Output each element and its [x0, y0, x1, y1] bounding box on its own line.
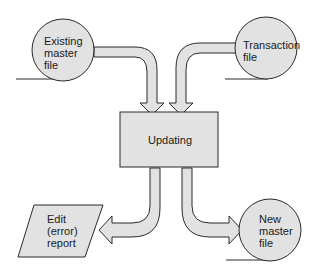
updating-label: Updating: [148, 134, 192, 146]
label-line: master: [259, 225, 293, 237]
edit-report-label: Edit (error) report: [47, 213, 78, 249]
existing-master-file-label: Existing master file: [44, 35, 83, 71]
arrow-updating-to-newmaster: [182, 168, 242, 244]
label-line: master: [44, 47, 83, 59]
transaction-file-label: Transaction file: [243, 39, 300, 63]
label-line: Transaction: [243, 39, 300, 51]
label-line: Updating: [148, 134, 192, 146]
label-line: file: [44, 59, 83, 71]
new-master-file-label: New master file: [259, 213, 293, 249]
label-line: New: [259, 213, 293, 225]
label-line: Edit: [47, 213, 78, 225]
label-line: report: [47, 237, 78, 249]
arrow-existing-to-updating: [94, 47, 164, 115]
label-line: Existing: [44, 35, 83, 47]
label-line: file: [243, 51, 300, 63]
label-line: file: [259, 237, 293, 249]
label-line: (error): [47, 225, 78, 237]
arrow-updating-to-edit: [99, 168, 160, 244]
